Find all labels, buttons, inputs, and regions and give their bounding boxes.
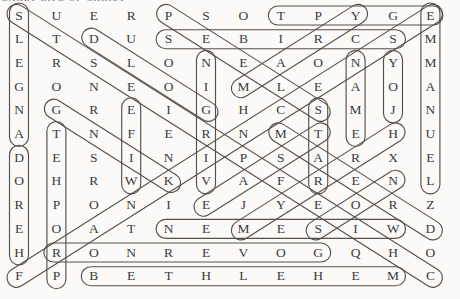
grid-letter: O [299, 54, 337, 71]
grid-letter: O [224, 7, 262, 24]
grid-letter: O [411, 244, 449, 261]
grid-letter: R [37, 54, 75, 71]
grid-letter: A [411, 78, 449, 95]
grid-letter: R [337, 149, 375, 166]
grid-letter: A [299, 149, 337, 166]
grid-letter: G [37, 101, 75, 118]
grid-letter: N [75, 125, 113, 142]
grid-letter: C [262, 101, 300, 118]
grid-letter: P [150, 7, 188, 24]
grid-letter: O [337, 196, 375, 213]
grid-letter: U [112, 30, 150, 47]
grid-letter: Y [337, 7, 375, 24]
grid-letter: I [150, 101, 188, 118]
grid-letter: W [112, 172, 150, 189]
grid-letter: E [187, 30, 225, 47]
grid-letter: E [112, 78, 150, 95]
grid-letter: N [187, 54, 225, 71]
grid-letter: M [411, 54, 449, 71]
grid-letter: Q [337, 244, 375, 261]
grid-letter: N [150, 220, 188, 237]
grid-letter: E [337, 172, 375, 189]
grid-letter: U [37, 7, 75, 24]
grid-letter: O [37, 78, 75, 95]
grid-letter: C [337, 30, 375, 47]
grid-letter: T [150, 267, 188, 284]
grid-letter: F [112, 125, 150, 142]
grid-letter: S [374, 30, 412, 47]
grid-letter: I [187, 78, 225, 95]
grid-letter: P [37, 267, 75, 284]
grid-letter: R [374, 196, 412, 213]
grid-letter: H [224, 101, 262, 118]
grid-letter: N [150, 149, 188, 166]
grid-letter: N [0, 101, 38, 118]
grid-letter: R [150, 244, 188, 261]
grid-letter: W [374, 220, 412, 237]
grid-letter: S [75, 149, 113, 166]
grid-letter: N [112, 196, 150, 213]
grid-letter: M [262, 125, 300, 142]
grid-letter: R [0, 196, 38, 213]
grid-letter: O [37, 220, 75, 237]
grid-letter: V [187, 172, 225, 189]
grid-letter: S [187, 7, 225, 24]
grid-letter: L [112, 54, 150, 71]
grid-letter: T [37, 125, 75, 142]
grid-letter: I [187, 149, 225, 166]
grid-letter: O [150, 78, 188, 95]
grid-letter: M [224, 78, 262, 95]
grid-letter: E [411, 7, 449, 24]
grid-letter: N [337, 54, 375, 71]
grid-letter: E [75, 7, 113, 24]
grid-letter: S [299, 220, 337, 237]
grid-letter: N [411, 101, 449, 118]
grid-letter: H [37, 172, 75, 189]
grid-letter: E [224, 54, 262, 71]
grid-letter: H [187, 267, 225, 284]
grid-letter: I [337, 220, 375, 237]
grid-letter: E [150, 125, 188, 142]
grid-letter: E [299, 196, 337, 213]
grid-letter: K [150, 172, 188, 189]
grid-letter: O [150, 54, 188, 71]
grid-letter: N [112, 244, 150, 261]
grid-letter: B [75, 267, 113, 284]
grid-letter: R [187, 125, 225, 142]
grid-letter: H [0, 244, 38, 261]
grid-letter: I [262, 30, 300, 47]
grid-letter: G [299, 244, 337, 261]
grid-letter: F [262, 172, 300, 189]
grid-letter: D [0, 149, 38, 166]
grid-letter: X [374, 149, 412, 166]
grid-letter: T [37, 30, 75, 47]
grid-letter: R [112, 7, 150, 24]
grid-letter: O [262, 244, 300, 261]
grid-letter: O [75, 196, 113, 213]
grid-letter: J [374, 101, 412, 118]
grid-letter: U [411, 125, 449, 142]
grid-letter: R [299, 30, 337, 47]
grid-letter: E [37, 149, 75, 166]
grid-letter: L [0, 30, 38, 47]
grid-letter: S [262, 149, 300, 166]
grid-letter: E [0, 220, 38, 237]
grid-letter: G [0, 78, 38, 95]
grid-letter: P [37, 196, 75, 213]
grid-letter: L [411, 172, 449, 189]
grid-letter: N [224, 125, 262, 142]
grid-letter: Y [262, 196, 300, 213]
grid-letter: T [299, 125, 337, 142]
grid-letter: V [224, 244, 262, 261]
grid-letter: S [299, 101, 337, 118]
grid-letter: E [262, 267, 300, 284]
grid-letter: R [75, 101, 113, 118]
grid-letter: B [224, 30, 262, 47]
grid-letter: A [224, 172, 262, 189]
grid-letter: E [337, 267, 375, 284]
grid-letter: C [411, 267, 449, 284]
grid-letter: M [224, 220, 262, 237]
grid-letter: T [262, 7, 300, 24]
grid-letter: H [374, 125, 412, 142]
grid-letter: S [150, 30, 188, 47]
